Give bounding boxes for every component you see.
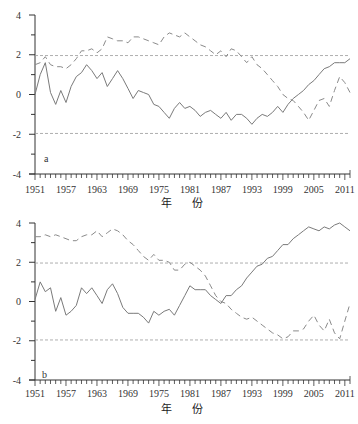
x-tick-label: 1951 — [25, 388, 45, 399]
uf-series-line — [35, 59, 350, 125]
x-tick-label: 1963 — [87, 388, 107, 399]
y-tick-label: 2 — [16, 49, 21, 60]
x-tick-label: 2005 — [304, 184, 324, 195]
x-tick-label: 1987 — [211, 388, 231, 399]
x-tick-label: 2005 — [304, 388, 324, 399]
y-tick-label: -4 — [13, 375, 21, 386]
x-tick-label: 2011 — [335, 388, 355, 399]
y-tick-label: -2 — [13, 335, 21, 346]
x-tick-label: 1993 — [242, 184, 262, 195]
x-tick-label: 1969 — [118, 388, 138, 399]
x-tick-label: 1981 — [180, 184, 200, 195]
x-tick-label: 1963 — [87, 184, 107, 195]
y-tick-label: 0 — [16, 89, 21, 100]
uf-series-line — [35, 223, 350, 323]
x-tick-label: 1957 — [56, 184, 76, 195]
x-tick-label: 1975 — [149, 184, 169, 195]
y-tick-label: 4 — [16, 10, 21, 21]
x-tick-label: 1999 — [273, 184, 293, 195]
x-tick-label: 1951 — [25, 184, 45, 195]
axes: 420-2-4195119571963196919751981198719931… — [13, 10, 355, 211]
y-tick-label: 2 — [16, 257, 21, 268]
x-tick-label: 1987 — [211, 184, 231, 195]
panel-label: a — [44, 153, 49, 164]
x-axis-title: 年 份 — [161, 196, 211, 210]
x-tick-label: 1969 — [118, 184, 138, 195]
x-tick-label: 1975 — [149, 388, 169, 399]
y-tick-label: 0 — [16, 296, 21, 307]
x-tick-label: 1957 — [56, 388, 76, 399]
x-axis-title: 年 份 — [161, 402, 211, 416]
chart-panel-b: 420-2-4195119571963196919751981198719931… — [0, 210, 358, 424]
panel-label: b — [42, 369, 47, 380]
mann-kendall-figure: 420-2-4195119571963196919751981198719931… — [0, 0, 358, 424]
ub-series-line — [35, 229, 350, 339]
y-tick-label: -2 — [13, 129, 21, 140]
x-tick-label: 1999 — [273, 388, 293, 399]
x-tick-label: 2011 — [335, 184, 355, 195]
x-tick-label: 1993 — [242, 388, 262, 399]
axes: 420-2-4195119571963196919751981198719931… — [13, 218, 355, 417]
y-tick-label: -4 — [13, 169, 21, 180]
y-tick-label: 4 — [16, 218, 21, 229]
chart-panel-a: 420-2-4195119571963196919751981198719931… — [0, 0, 358, 210]
x-tick-label: 1981 — [180, 388, 200, 399]
ub-series-line — [35, 33, 350, 120]
